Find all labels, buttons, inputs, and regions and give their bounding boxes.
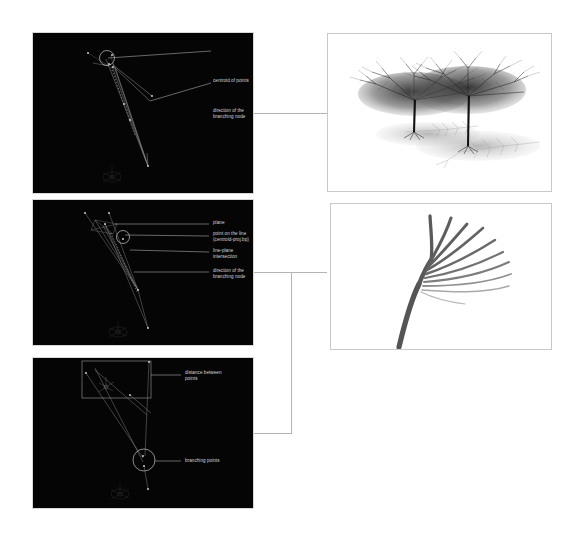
anno-line-plane-intersection: line-plane intersection (213, 248, 253, 260)
image-panel-branch-fan[interactable] (330, 203, 552, 350)
image-panel-trees[interactable] (327, 33, 552, 192)
anno-direction-of-branching-node-middle: direction of the branching node (213, 268, 245, 280)
branch-fan-render (331, 204, 551, 349)
anno-branching-points: branching points (185, 458, 220, 464)
axis-gizmo (111, 483, 129, 499)
viewport-bottom[interactable]: distance between points branching points (33, 358, 253, 508)
anno-distance-between-points: distance between points (185, 370, 222, 382)
trees-render (328, 34, 551, 191)
anno-point-on-the-line: point on the line (centroid-proj.bp) (213, 231, 249, 243)
axis-gizmo (109, 321, 127, 337)
anno-centroid-of-points: centroid of points (213, 78, 249, 84)
viewport-top[interactable]: centroid of points direction of the bran… (33, 33, 253, 193)
viewport-middle[interactable]: plane point on the line (centroid-proj.b… (33, 200, 253, 345)
anno-direction-of-branching-node: direction of the branching node (213, 108, 245, 120)
axis-gizmo (103, 165, 121, 182)
diagram-stage: centroid of points direction of the bran… (0, 0, 577, 538)
anno-plane: plane (213, 220, 225, 226)
